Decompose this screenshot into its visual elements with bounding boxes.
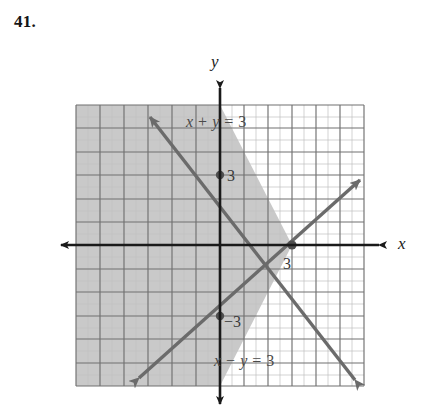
eq-lower-term-x: x [214, 352, 222, 369]
equation-label-x-plus-y: x + y = 3 [186, 113, 247, 131]
x-axis-label: x [398, 234, 406, 254]
equation-label-x-minus-y: x − y = 3 [214, 352, 275, 370]
eq-lower-value: 3 [266, 352, 275, 369]
tick-label-y-negative-3: −3 [224, 313, 241, 331]
coordinate-plane-figure: y x x + y = 3 x − y = 3 3 3 −3 [0, 0, 424, 420]
eq-upper-term-x: x [186, 113, 194, 130]
eq-lower-operator: − [226, 352, 236, 369]
eq-lower-term-y: y [240, 352, 248, 369]
eq-upper-value: 3 [238, 113, 247, 130]
eq-upper-operator: + [198, 113, 208, 130]
eq-lower-equals: = [252, 352, 262, 369]
tick-label-y-positive-3: 3 [227, 167, 235, 185]
eq-upper-equals: = [224, 113, 234, 130]
tick-label-x-positive-3: 3 [283, 255, 291, 273]
y-axis-label: y [211, 52, 219, 72]
eq-upper-term-y: y [212, 113, 220, 130]
